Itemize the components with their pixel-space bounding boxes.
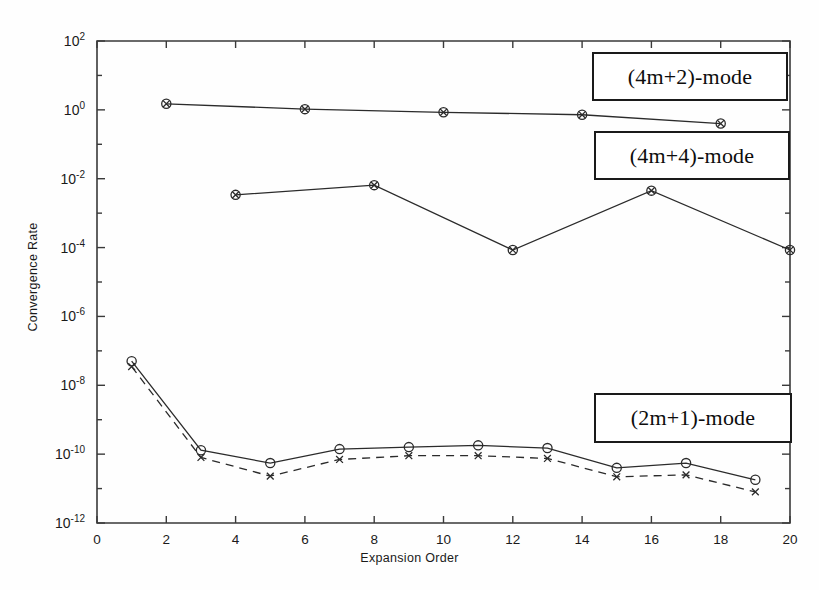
x-tick-label-4: 4 [232,532,240,547]
x-tick-label-6: 6 [301,532,309,547]
y-axis-label: Convergence Rate [26,197,40,357]
x-tick-label-8: 8 [370,532,378,547]
marker-circle [751,475,760,484]
y-tick-label-1e-2: 10-2 [61,169,86,187]
y-tick-exponent-1e-8: -8 [76,375,85,386]
y-tick-label-1e-4: 10-4 [61,238,86,256]
x-tick-label-10: 10 [436,532,451,547]
legend-box-4m2: (4m+2)-mode [592,52,788,101]
x-tick-label-0: 0 [93,532,101,547]
x-tick-label-18: 18 [713,532,728,547]
x-tick-label-12: 12 [505,532,520,547]
figure-container: 0246810121416182010210010-210-410-610-81… [0,0,819,590]
y-tick-label-1e0: 100 [64,100,86,118]
y-tick-exponent-1e-2: -2 [76,169,85,180]
x-tick-label-20: 20 [782,532,797,547]
x-tick-label-2: 2 [163,532,171,547]
y-tick-label-1e-12: 10-12 [55,513,85,531]
y-tick-label-1e2: 102 [64,31,86,49]
y-tick-exponent-1e0: 0 [79,100,85,111]
marker-x [509,247,516,254]
x-tick-label-16: 16 [644,532,659,547]
legend-box-2m1: (2m+1)-mode [594,393,792,443]
series--4m-4-mode [231,181,795,255]
series-line [166,104,720,124]
y-tick-exponent-1e2: 2 [79,31,85,42]
y-tick-exponent-1e-4: -4 [76,238,85,249]
y-tick-label-1e-8: 10-8 [61,375,86,393]
series-line [236,185,790,250]
legend-label-4m4: (4m+4)-mode [630,143,755,169]
series--4m-2-mode [162,99,726,128]
legend-label-4m2: (4m+2)-mode [628,64,753,90]
y-tick-exponent-1e-6: -6 [76,306,85,317]
y-tick-exponent-1e-12: -12 [71,513,86,524]
y-tick-exponent-1e-10: -10 [71,444,86,455]
legend-label-2m1: (2m+1)-mode [631,405,756,431]
y-tick-label-1e-6: 10-6 [61,306,86,324]
y-tick-label-1e-10: 10-10 [55,444,85,462]
x-axis-label: Expansion Order [0,551,819,565]
legend-box-4m4: (4m+4)-mode [594,131,790,180]
marker-x [648,187,655,194]
marker-x [128,363,135,370]
x-tick-label-14: 14 [575,532,591,547]
